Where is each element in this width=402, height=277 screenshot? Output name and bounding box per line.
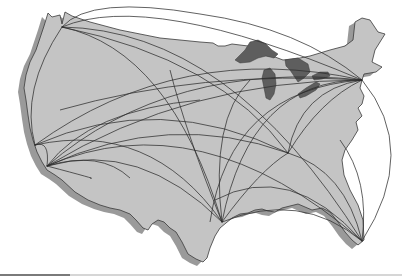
hub-houston [221, 221, 223, 223]
hub-new-york [361, 79, 363, 81]
us-route-map [0, 0, 402, 277]
bottom-rule-dark [0, 274, 70, 276]
hub-seattle [61, 26, 63, 28]
route-newyork-miami-outer [362, 80, 391, 241]
hub-atlanta [287, 152, 289, 154]
hub-los-angeles [46, 165, 48, 167]
hub-san-francisco [34, 144, 36, 146]
bottom-rule-light [70, 274, 402, 276]
hub-miami [361, 240, 363, 242]
